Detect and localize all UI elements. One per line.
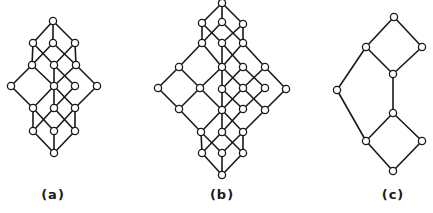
lattice-node [218,171,225,178]
lattice-edge [393,141,422,171]
lattice-edge [202,43,222,67]
lattice-edge [243,43,265,67]
lattice-edge [75,86,97,108]
lattice-node [72,61,79,68]
lattice-node [175,63,182,70]
lattice-edge [366,17,394,47]
lattice-edge [337,90,366,141]
lattice-edge [179,88,200,109]
lattice-edge [337,47,366,90]
lattice-node [49,39,56,46]
lattice-node [198,19,205,26]
lattice-edge [366,47,393,74]
diagram-c [333,13,425,174]
lattice-edge [202,153,222,175]
lattice-edge [33,131,54,153]
lattice-edge [33,21,53,43]
lattice-node [50,82,57,89]
lattice-node [50,149,57,156]
lattice-node [218,39,225,46]
lattice-node [197,128,204,135]
lattice-edge [222,153,243,175]
lattice-edge [179,67,200,88]
lattice-edge [201,110,222,132]
lattice-edge [11,65,32,86]
lattice-node [29,127,36,134]
diagram-b [154,0,289,179]
lattice-node [93,82,100,89]
lattice-node [239,39,246,46]
lattice-edge [158,67,179,88]
lattice-node [239,105,246,112]
diagram-c-label: (c) [382,187,405,202]
lattice-node [50,104,57,111]
lattice-node [71,39,78,46]
lattice-edge [366,113,393,141]
lattice-node [71,127,78,134]
lattice-node [28,61,35,68]
lattice-node [418,43,425,50]
lattice-node [154,84,161,91]
lattice-edge [393,47,422,74]
lattice-edge [179,43,202,67]
lattice-figure [0,0,433,213]
lattice-edge [200,67,222,88]
lattice-node [196,84,203,91]
lattice-edge [158,88,179,109]
lattice-node [362,43,369,50]
lattice-edge [76,65,97,86]
lattice-node [175,105,182,112]
lattice-node [218,63,225,70]
lattice-node [389,167,396,174]
lattice-node [218,85,225,92]
lattice-node [261,106,268,113]
lattice-edge [54,131,75,153]
lattice-node [418,137,425,144]
lattice-node [218,128,225,135]
lattice-node [239,63,246,70]
lattice-node [218,18,225,25]
lattice-node [218,0,225,7]
lattice-node [261,63,268,70]
lattice-node [239,149,246,156]
lattice-node [218,149,225,156]
lattice-node [390,13,397,20]
diagram-a-label: (a) [41,187,65,202]
lattice-node [239,84,246,91]
lattice-node [198,149,205,156]
lattice-edge [265,89,286,110]
diagram-b-label: (b) [210,187,234,202]
lattice-node [50,127,57,134]
lattice-node [239,20,246,27]
lattice-node [49,17,56,24]
lattice-edge [179,109,201,132]
lattice-node [239,128,246,135]
lattice-edge [243,110,265,132]
lattice-node [7,82,14,89]
lattice-edge [394,17,422,47]
lattice-node [389,109,396,116]
lattice-edge [33,86,54,108]
lattice-edge [366,141,393,171]
lattice-node [29,104,36,111]
lattice-node [198,39,205,46]
lattice-edge [11,86,33,108]
lattice-node [71,104,78,111]
lattice-edge [53,21,75,43]
lattice-node [362,137,369,144]
lattice-edge [32,65,54,86]
lattice-node [29,39,36,46]
lattice-edge [393,113,422,141]
lattice-node [261,84,268,91]
diagram-a [7,17,100,156]
lattice-node [389,70,396,77]
lattice-node [282,85,289,92]
lattice-node [71,82,78,89]
lattice-node [50,61,57,68]
lattice-node [333,86,340,93]
lattice-node [218,106,225,113]
